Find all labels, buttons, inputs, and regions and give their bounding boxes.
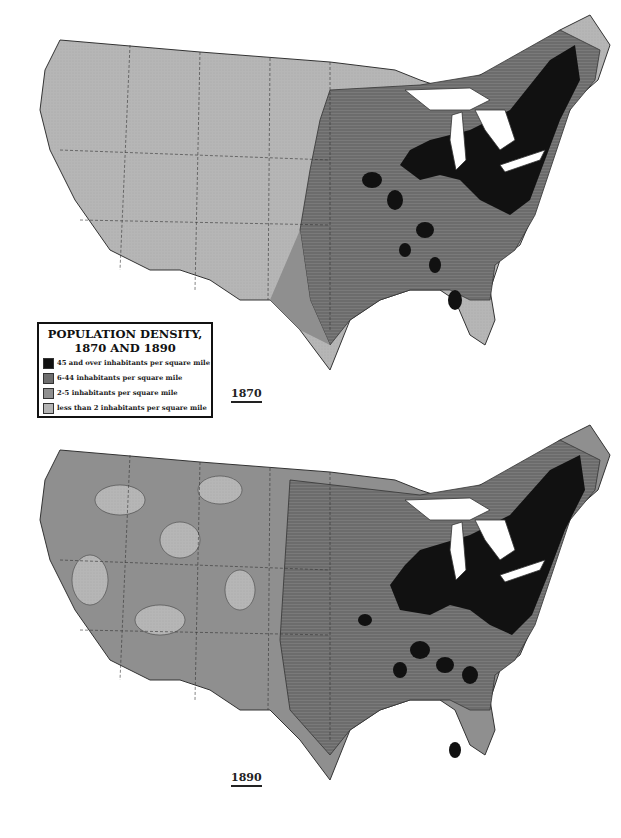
legend-label: 2-5 inhabitants per square mile xyxy=(57,389,178,397)
swatch-low xyxy=(43,388,54,399)
swatch-medium xyxy=(43,373,54,384)
year-label-1890: 1890 xyxy=(231,771,262,787)
year-label-1870: 1870 xyxy=(231,387,262,403)
legend-item-low: 2-5 inhabitants per square mile xyxy=(43,386,207,400)
legend: POPULATION DENSITY, 1870 AND 1890 45 and… xyxy=(37,322,213,418)
map-1890 xyxy=(0,410,621,810)
legend-title-line2: 1870 AND 1890 xyxy=(43,341,207,355)
legend-label: 6-44 inhabitants per square mile xyxy=(57,374,182,382)
legend-title-line1: POPULATION DENSITY, xyxy=(43,327,207,341)
legend-label: 45 and over inhabitants per square mile xyxy=(57,359,210,367)
legend-item-dense: 45 and over inhabitants per square mile xyxy=(43,356,207,370)
swatch-dense xyxy=(43,358,54,369)
legend-item-medium: 6-44 inhabitants per square mile xyxy=(43,371,207,385)
